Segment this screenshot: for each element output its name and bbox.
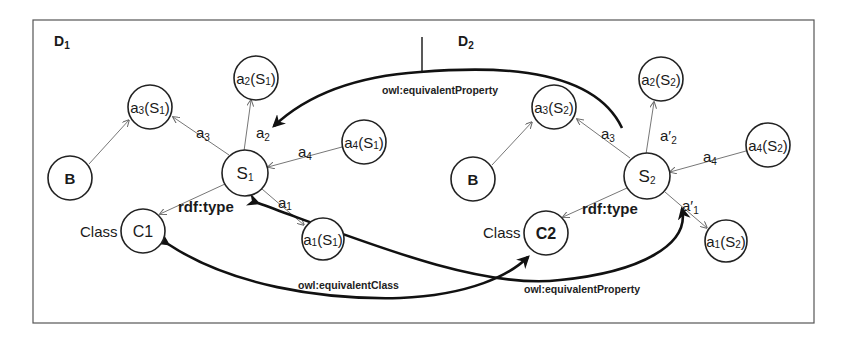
d2-edge-a4-label: a4 bbox=[703, 148, 717, 167]
equivalent-class-label: owl:equivalentClass bbox=[298, 279, 399, 291]
d1-class-label: Class bbox=[80, 223, 118, 240]
d2-node-b: B bbox=[451, 157, 495, 201]
svg-text:a1(S1): a1(S1) bbox=[303, 231, 342, 248]
d2-node-a4: a4(S2) bbox=[746, 123, 790, 167]
d2-node-a1: a1(S2) bbox=[705, 220, 747, 262]
d1-rdf-type-label: rdf:type bbox=[178, 198, 234, 215]
svg-text:a4(S2): a4(S2) bbox=[748, 137, 787, 154]
diagram-frame bbox=[33, 20, 814, 323]
d1-node-b: B bbox=[48, 156, 92, 200]
d2-node-c2: C2 bbox=[524, 211, 568, 255]
d1-node-a1: a1(S1) bbox=[302, 218, 344, 260]
d2-node-s2: S2 bbox=[624, 153, 670, 199]
svg-text:a3(S1): a3(S1) bbox=[130, 99, 169, 116]
d1-edge-a2-label: a2 bbox=[256, 124, 270, 143]
d2-edge-a3-label: a3 bbox=[601, 125, 615, 144]
d2-edge-a2-label: a′2 bbox=[660, 127, 677, 146]
svg-text:a1(S2): a1(S2) bbox=[706, 233, 745, 250]
d2-class-label: Class bbox=[483, 224, 521, 241]
rdf-mapping-diagram: D1 D2 owl:equivalentProperty owl:equival… bbox=[0, 0, 844, 342]
d1-node-a3: a3(S1) bbox=[128, 85, 172, 129]
equivalent-property-top-label: owl:equivalentProperty bbox=[382, 84, 498, 96]
d1-node-a2: a2(S1) bbox=[234, 56, 278, 100]
d1-edge-a3-label: a3 bbox=[196, 124, 210, 143]
d2-edge-a1-label: a′1 bbox=[682, 197, 699, 216]
svg-text:B: B bbox=[468, 171, 479, 188]
svg-text:a2(S1): a2(S1) bbox=[236, 70, 275, 87]
d1-edge-a4-label: a4 bbox=[298, 143, 312, 162]
svg-text:C2: C2 bbox=[536, 225, 557, 242]
d1-edge-a1-label: a1 bbox=[278, 194, 292, 212]
svg-text:a4(S1): a4(S1) bbox=[344, 134, 383, 151]
d2-rdf-type-label: rdf:type bbox=[582, 200, 638, 217]
d1-node-c1: C1 bbox=[121, 209, 165, 253]
d1-node-a4: a4(S1) bbox=[342, 120, 386, 164]
svg-text:B: B bbox=[65, 170, 76, 187]
d2-node-a3: a3(S2) bbox=[532, 85, 576, 129]
dataset-title-d2: D2 bbox=[458, 33, 474, 51]
svg-text:C1: C1 bbox=[133, 223, 154, 240]
svg-text:a2(S2): a2(S2) bbox=[641, 71, 680, 88]
svg-text:a3(S2): a3(S2) bbox=[534, 99, 573, 116]
d1-node-s1: S1 bbox=[222, 150, 268, 196]
dataset-title-d1: D1 bbox=[54, 33, 70, 51]
equivalent-property-bottom-label: owl:equivalentProperty bbox=[524, 283, 640, 295]
d2-node-a2: a2(S2) bbox=[639, 57, 683, 101]
